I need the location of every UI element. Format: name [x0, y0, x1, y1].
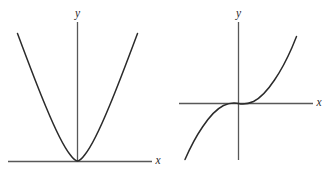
parabola-x-axis-label: x	[155, 154, 162, 166]
parabola-plot: x y	[8, 7, 162, 166]
function-graphs-figure: x y x y	[0, 0, 331, 184]
cubic-plot: x y	[179, 7, 323, 160]
figure-canvas: x y x y	[0, 0, 331, 184]
cubic-y-axis-label: y	[235, 7, 242, 20]
parabola-y-axis-label: y	[74, 7, 81, 20]
cubic-curve	[185, 37, 297, 160]
cubic-x-axis-label: x	[316, 96, 323, 108]
